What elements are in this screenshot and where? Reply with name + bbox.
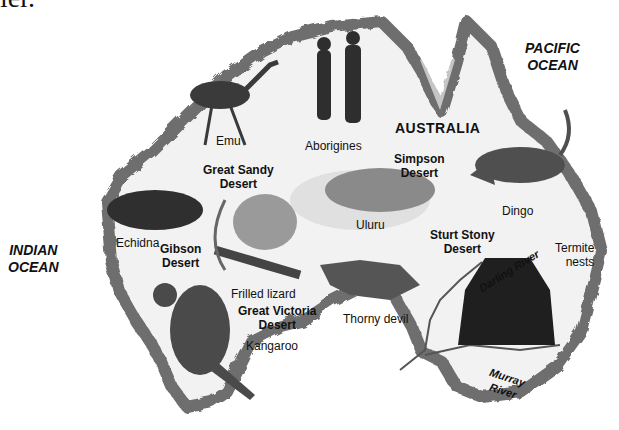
desert-label-great-sandy: Great Sandy Desert [203,163,274,191]
animal-label-kangaroo: Kangaroo [246,339,298,353]
animal-label-thorny-devil: Thorny devil [343,312,408,326]
country-label: AUSTRALIA [395,120,480,136]
desert-label-gibson: Gibson Desert [160,242,201,270]
ocean-label-pacific: PACIFIC OCEAN [525,40,580,74]
echidna-icon [107,190,203,230]
desert-label-great-victoria: Great Victoria Desert [238,304,316,332]
animal-label-frilled-lizard: Frilled lizard [231,287,296,301]
animal-label-echidna: Echidna [116,236,159,250]
animal-label-emu: Emu [216,134,241,148]
animal-label-dingo: Dingo [502,204,533,218]
feature-label-aborigines: Aborigines [305,139,362,153]
feature-label-uluru: Uluru [356,218,385,232]
desert-label-sturt-stony: Sturt Stony Desert [430,228,495,256]
desert-label-simpson: Simpson Desert [394,152,445,180]
ocean-label-indian: INDIAN OCEAN [8,242,59,276]
animal-label-termite-nests: Termite nests [555,241,594,269]
